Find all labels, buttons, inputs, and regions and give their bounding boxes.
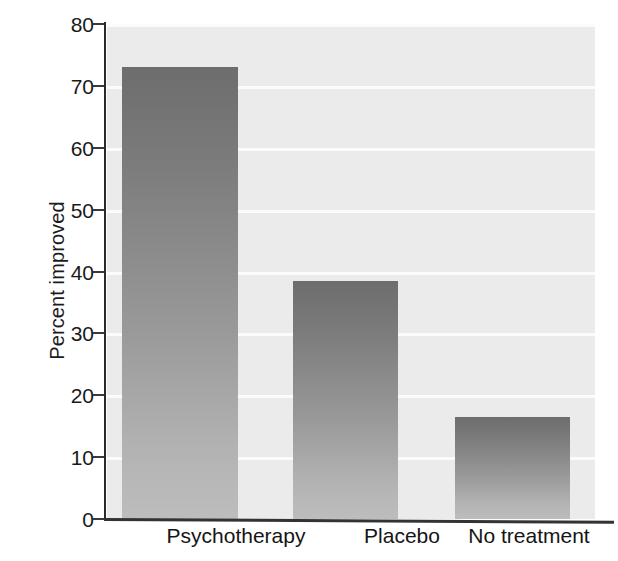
x-axis-category-label: Psychotherapy [167,524,306,548]
plot-area [107,24,595,519]
y-axis-tick-label: 70 [46,75,94,96]
y-axis-tick-label: 50 [46,199,94,220]
x-axis-category-label: No treatment [468,524,589,548]
y-axis-tick-label: 20 [46,385,94,406]
y-axis-tick-label: 30 [46,323,94,344]
y-axis-tick-mark [93,332,104,334]
bar [122,67,238,519]
y-axis-tick-label: 10 [46,447,94,468]
bar [455,417,570,519]
x-axis-category-label: Placebo [364,524,440,548]
gridline [107,24,595,27]
bar-chart-figure: Percent improved 01020304050607080 Psych… [0,0,618,561]
y-axis-tick-mark [93,518,104,520]
y-axis-tick-mark [93,209,104,211]
y-axis-line [104,22,106,521]
x-axis-category-labels: PsychotherapyPlaceboNo treatment [0,524,618,561]
y-axis-tick-label: 80 [46,14,94,35]
y-axis-tick-mark [93,394,104,396]
y-axis-tick-labels: 01020304050607080 [46,0,94,561]
y-axis-tick-mark [93,23,104,25]
y-axis-tick-mark [93,271,104,273]
y-axis-tick-label: 60 [46,137,94,158]
y-axis-tick-mark [93,147,104,149]
y-axis-tick-mark [93,85,104,87]
bar [293,281,398,519]
y-axis-tick-label: 40 [46,261,94,282]
y-axis-tick-mark [93,456,104,458]
